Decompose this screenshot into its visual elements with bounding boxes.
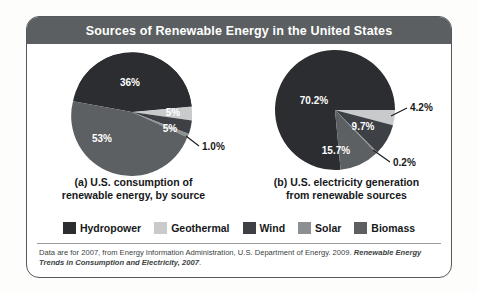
chart-a-caption-line2: renewable energy, by source bbox=[27, 189, 240, 202]
pie-a-svg: 36% 5% 5% 53% 1.0% bbox=[27, 44, 240, 180]
pie-b-label-solar: 0.2% bbox=[393, 157, 416, 168]
pie-b-label-hydropower: 70.2% bbox=[300, 95, 328, 106]
source-note-period: . bbox=[199, 258, 201, 267]
charts-container: 36% 5% 5% 53% 1.0% (a) U.S. consumption … bbox=[27, 44, 451, 216]
chart-b-caption-line2: from renewable sources bbox=[240, 189, 452, 202]
chart-panel-b: 70.2% 9.7% 15.7% 4.2% 0.2% (b) U.S. elec… bbox=[240, 44, 452, 216]
legend-item-solar: Solar bbox=[298, 222, 341, 234]
pie-a-label-geothermal: 5% bbox=[166, 107, 181, 118]
legend-swatch-biomass bbox=[354, 222, 367, 234]
figure-card: Sources of Renewable Energy in the Unite… bbox=[26, 16, 452, 278]
chart-panel-a: 36% 5% 5% 53% 1.0% (a) U.S. consumption … bbox=[27, 44, 240, 216]
legend-item-hydropower: Hydropower bbox=[63, 222, 141, 234]
screenshot-root: Sources of Renewable Energy in the Unite… bbox=[0, 0, 478, 293]
chart-legend: Hydropower Geothermal Wind Solar Biomass bbox=[27, 216, 451, 240]
source-note: Data are for 2007, from Energy Informati… bbox=[27, 244, 451, 268]
chart-b-caption: (b) U.S. electricity generation from ren… bbox=[240, 176, 452, 201]
pie-b-label-wind: 9.7% bbox=[352, 121, 375, 132]
legend-label-wind: Wind bbox=[260, 222, 286, 234]
chart-a-caption: (a) U.S. consumption of renewable energy… bbox=[27, 176, 240, 201]
pie-a-leader-solar bbox=[186, 136, 199, 146]
pie-a-label-solar: 1.0% bbox=[202, 141, 225, 152]
pie-chart-b: 70.2% 9.7% 15.7% 4.2% 0.2% bbox=[240, 44, 452, 180]
pie-a-label-hydropower: 36% bbox=[120, 77, 140, 88]
source-note-text: Data are for 2007, from Energy Informati… bbox=[39, 248, 354, 257]
pie-b-svg: 70.2% 9.7% 15.7% 4.2% 0.2% bbox=[240, 44, 452, 180]
legend-label-hydropower: Hydropower bbox=[80, 222, 141, 234]
legend-label-biomass: Biomass bbox=[371, 222, 415, 234]
pie-a-label-wind: 5% bbox=[163, 123, 178, 134]
legend-label-geothermal: Geothermal bbox=[171, 222, 229, 234]
legend-label-solar: Solar bbox=[315, 222, 341, 234]
legend-swatch-solar bbox=[298, 222, 311, 234]
figure-title: Sources of Renewable Energy in the Unite… bbox=[86, 24, 393, 38]
legend-item-biomass: Biomass bbox=[354, 222, 415, 234]
legend-item-geothermal: Geothermal bbox=[154, 222, 229, 234]
pie-b-label-biomass: 15.7% bbox=[322, 145, 350, 156]
legend-swatch-geothermal bbox=[154, 222, 167, 234]
legend-swatch-wind bbox=[243, 222, 256, 234]
pie-a-label-biomass: 53% bbox=[92, 133, 112, 144]
chart-b-caption-line1: (b) U.S. electricity generation bbox=[240, 176, 452, 189]
pie-chart-a: 36% 5% 5% 53% 1.0% bbox=[27, 44, 240, 180]
pie-b-label-geothermal: 4.2% bbox=[410, 102, 433, 113]
legend-item-wind: Wind bbox=[243, 222, 286, 234]
figure-title-bar: Sources of Renewable Energy in the Unite… bbox=[27, 17, 451, 44]
pie-b-leader-solar bbox=[373, 150, 390, 162]
legend-swatch-hydropower bbox=[63, 222, 76, 234]
chart-a-caption-line1: (a) U.S. consumption of bbox=[27, 176, 240, 189]
